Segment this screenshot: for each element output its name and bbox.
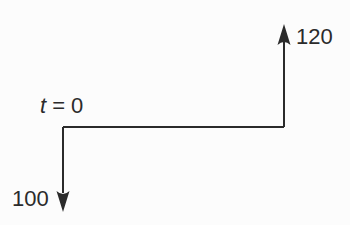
up-arrowhead-icon: [278, 24, 291, 45]
inflow-amount-label: 120: [296, 24, 333, 49]
outflow-amount-label: 100: [12, 186, 49, 211]
time-equals-value: = 0: [52, 93, 83, 118]
time-zero-label: t= 0: [40, 93, 83, 118]
diagram-canvas: t= 0 100 120: [0, 0, 350, 225]
down-arrowhead-icon: [57, 191, 70, 212]
time-variable: t: [40, 93, 47, 118]
cash-flow-diagram: t= 0 100 120: [0, 0, 350, 225]
